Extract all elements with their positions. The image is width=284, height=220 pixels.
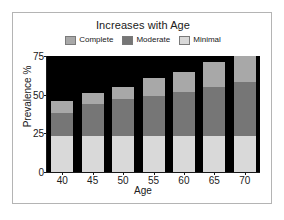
bar-segment-moderate bbox=[51, 113, 73, 136]
chart-legend: Complete Moderate Minimal bbox=[13, 35, 273, 45]
x-tick-label-45: 45 bbox=[87, 175, 98, 186]
bar-segment-moderate bbox=[143, 96, 165, 136]
y-tick-label: 50 bbox=[33, 89, 44, 100]
bar-segment-complete bbox=[143, 78, 165, 97]
bar-segment-complete bbox=[51, 101, 73, 113]
x-tick-label-55: 55 bbox=[148, 175, 159, 186]
x-axis-title: Age bbox=[13, 185, 273, 196]
legend-swatch-minimal-icon bbox=[179, 36, 190, 45]
x-tick-mark bbox=[123, 172, 124, 175]
bar-segment-moderate bbox=[173, 92, 195, 137]
x-tick-label-65: 65 bbox=[209, 175, 220, 186]
bar-segment-minimal bbox=[112, 136, 134, 172]
bar-age-40[interactable] bbox=[51, 101, 73, 172]
y-tick-label: 25 bbox=[33, 128, 44, 139]
x-tick-label-60: 60 bbox=[178, 175, 189, 186]
x-tick-mark bbox=[62, 172, 63, 175]
bar-segment-moderate bbox=[82, 104, 104, 136]
x-tick-mark bbox=[154, 172, 155, 175]
bar-age-45[interactable] bbox=[82, 93, 104, 172]
y-tick-mark bbox=[44, 133, 47, 134]
bar-segment-minimal bbox=[51, 136, 73, 172]
bar-age-70[interactable] bbox=[234, 56, 256, 172]
legend-item-minimal[interactable]: Minimal bbox=[179, 35, 221, 45]
bar-segment-minimal bbox=[234, 136, 256, 172]
y-tick-label: 75 bbox=[33, 51, 44, 62]
bar-age-65[interactable] bbox=[203, 62, 225, 172]
bar-segment-moderate bbox=[203, 87, 225, 136]
y-tick-mark bbox=[44, 172, 47, 173]
legend-label-minimal: Minimal bbox=[193, 35, 221, 45]
bar-segment-complete bbox=[112, 87, 134, 99]
bar-segment-complete bbox=[173, 72, 195, 92]
x-tick-label-50: 50 bbox=[118, 175, 129, 186]
x-tick-mark bbox=[93, 172, 94, 175]
bar-age-60[interactable] bbox=[173, 72, 195, 173]
figure-frame: Increases with Age Complete Moderate Min… bbox=[12, 12, 272, 204]
y-tick-mark bbox=[44, 56, 47, 57]
bar-segment-minimal bbox=[173, 136, 195, 172]
bar-age-55[interactable] bbox=[143, 78, 165, 172]
bar-segment-moderate bbox=[112, 99, 134, 136]
y-axis-title: Prevalence % bbox=[22, 47, 33, 147]
legend-swatch-complete-icon bbox=[65, 36, 76, 45]
bar-age-50[interactable] bbox=[112, 87, 134, 172]
bar-segment-complete bbox=[234, 56, 256, 82]
bar-segment-complete bbox=[82, 93, 104, 104]
bar-segment-complete bbox=[203, 62, 225, 87]
x-tick-mark bbox=[184, 172, 185, 175]
chart-title: Increases with Age bbox=[13, 19, 273, 31]
bar-segment-minimal bbox=[82, 136, 104, 172]
legend-label-moderate: Moderate bbox=[136, 35, 170, 45]
x-tick-mark bbox=[214, 172, 215, 175]
legend-swatch-moderate-icon bbox=[122, 36, 133, 45]
legend-item-complete[interactable]: Complete bbox=[65, 35, 113, 45]
y-tick-mark bbox=[44, 95, 47, 96]
bar-segment-minimal bbox=[203, 136, 225, 172]
plot-area: 025507540455055606570 bbox=[46, 56, 260, 173]
legend-item-moderate[interactable]: Moderate bbox=[122, 35, 170, 45]
x-tick-label-40: 40 bbox=[57, 175, 68, 186]
x-tick-label-70: 70 bbox=[239, 175, 250, 186]
x-tick-mark bbox=[245, 172, 246, 175]
legend-label-complete: Complete bbox=[79, 35, 113, 45]
bar-segment-moderate bbox=[234, 82, 256, 136]
bar-segment-minimal bbox=[143, 136, 165, 172]
